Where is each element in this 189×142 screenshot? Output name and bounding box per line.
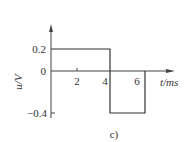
y-axis-label: u/V <box>12 73 24 90</box>
x-tick-label-2: 2 <box>74 75 80 87</box>
y-axis-arrow <box>49 24 53 32</box>
signal-waveform <box>51 49 145 113</box>
figure-caption: c) <box>110 128 119 141</box>
x-tick-label-6: 6 <box>134 75 140 87</box>
x-axis-arrow <box>166 69 175 73</box>
x-tick-label-4: 4 <box>102 75 108 87</box>
waveform-chart: 0.2 0 −0.4 2 4 6 t/ms u/V c) <box>0 0 189 142</box>
y-tick-label-0: 0 <box>41 65 47 77</box>
x-axis-label: t/ms <box>160 76 178 88</box>
y-tick-label-02: 0.2 <box>32 43 46 55</box>
y-tick-label-m04: −0.4 <box>27 107 47 119</box>
